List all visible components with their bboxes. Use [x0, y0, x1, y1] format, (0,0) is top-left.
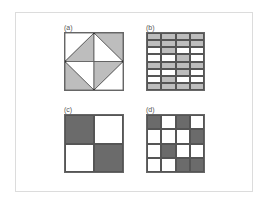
panel-c-label: (c): [64, 106, 72, 113]
grid-cell: [161, 69, 175, 76]
grid-cell: [190, 158, 204, 172]
grid-cell: [190, 76, 204, 83]
grid-cell: [147, 33, 161, 40]
grid-cell: [65, 144, 94, 173]
panel-b-grid: [146, 32, 205, 91]
grid-cell: [190, 69, 204, 76]
grid-cell: [176, 83, 190, 90]
grid-cell: [190, 62, 204, 69]
grid-cell: [161, 158, 175, 172]
grid-cell: [147, 69, 161, 76]
grid-cell: [176, 129, 190, 143]
grid-cell: [161, 54, 175, 61]
grid-cell: [190, 47, 204, 54]
grid-cell: [147, 47, 161, 54]
grid-cell: [147, 76, 161, 83]
panel-d-label: (d): [146, 106, 155, 113]
panel-a-label: (a): [64, 24, 73, 31]
grid-cell: [190, 83, 204, 90]
grid-cell: [176, 47, 190, 54]
grid-cell: [176, 115, 190, 129]
grid-cell: [176, 158, 190, 172]
grid-b: [147, 33, 204, 90]
grid-cell: [147, 40, 161, 47]
grid-cell: [161, 62, 175, 69]
grid-cell: [190, 144, 204, 158]
grid-cell: [161, 83, 175, 90]
panel-c-grid: [64, 114, 124, 173]
grid-cell: [147, 83, 161, 90]
grid-cell: [190, 40, 204, 47]
grid-cell: [147, 129, 161, 143]
grid-cell: [176, 33, 190, 40]
triangulated-square-graphic: [65, 33, 123, 90]
grid-cell: [190, 54, 204, 61]
panel-b-label: (b): [146, 24, 155, 31]
grid-cell: [147, 158, 161, 172]
grid-d: [147, 115, 204, 172]
grid-cell: [161, 47, 175, 54]
grid-cell: [176, 40, 190, 47]
grid-cell: [176, 54, 190, 61]
grid-cell: [94, 144, 123, 173]
grid-cell: [161, 40, 175, 47]
grid-cell: [147, 62, 161, 69]
panel-a-square: [64, 32, 124, 91]
grid-cell: [190, 33, 204, 40]
grid-cell: [176, 69, 190, 76]
figure-frame: [15, 12, 253, 192]
grid-cell: [176, 76, 190, 83]
grid-cell: [147, 54, 161, 61]
grid-cell: [161, 76, 175, 83]
grid-cell: [161, 129, 175, 143]
grid-c: [65, 115, 123, 172]
grid-cell: [190, 115, 204, 129]
grid-cell: [190, 129, 204, 143]
grid-cell: [176, 144, 190, 158]
grid-cell: [94, 115, 123, 144]
grid-cell: [147, 115, 161, 129]
grid-cell: [161, 33, 175, 40]
grid-cell: [176, 62, 190, 69]
grid-cell: [161, 144, 175, 158]
grid-cell: [147, 144, 161, 158]
grid-cell: [65, 115, 94, 144]
grid-cell: [161, 115, 175, 129]
panel-d-grid: [146, 114, 205, 173]
